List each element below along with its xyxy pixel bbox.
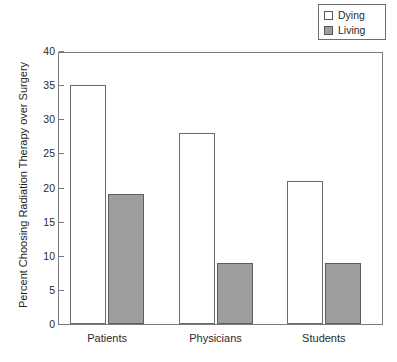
bar-physicians-living <box>217 263 253 324</box>
plot-area: 0510152025303540 PatientsPhysiciansStude… <box>58 52 383 325</box>
bar-students-dying <box>287 181 323 324</box>
legend-label-living: Living <box>338 25 365 36</box>
legend-item-dying: Dying <box>324 8 381 22</box>
y-tick-mark <box>59 119 64 120</box>
chart-page: Dying Living Percent Choosing Radiation … <box>0 0 397 362</box>
x-axis-label-patients: Patients <box>87 332 127 344</box>
y-tick-label: 10 <box>43 250 55 262</box>
legend-swatch-living <box>324 26 333 35</box>
y-tick-label: 0 <box>49 318 55 330</box>
y-tick-mark <box>59 188 64 189</box>
bar-physicians-dying <box>179 133 215 324</box>
legend-item-living: Living <box>324 23 381 37</box>
x-axis-label-physicians: Physicians <box>189 332 242 344</box>
y-tick-label: 15 <box>43 216 55 228</box>
y-tick-label: 5 <box>49 284 55 296</box>
y-axis-title: Percent Choosing Radiation Therapy over … <box>14 35 32 335</box>
y-tick-mark <box>59 222 64 223</box>
y-tick-mark <box>59 51 64 52</box>
y-tick-label: 25 <box>43 147 55 159</box>
y-tick-label: 20 <box>43 182 55 194</box>
y-tick-label: 30 <box>43 113 55 125</box>
bar-students-living <box>325 263 361 324</box>
legend-swatch-dying <box>324 11 333 20</box>
y-tick-label: 35 <box>43 79 55 91</box>
y-tick-mark <box>59 85 64 86</box>
y-tick-mark <box>59 324 64 325</box>
x-axis-label-students: Students <box>302 332 345 344</box>
y-tick-mark <box>59 153 64 154</box>
chart-legend: Dying Living <box>318 4 386 40</box>
y-tick-mark <box>59 290 64 291</box>
legend-label-dying: Dying <box>338 10 365 21</box>
y-tick-mark <box>59 256 64 257</box>
y-tick-label: 40 <box>43 45 55 57</box>
bar-patients-dying <box>70 85 106 324</box>
bar-patients-living <box>108 194 144 324</box>
